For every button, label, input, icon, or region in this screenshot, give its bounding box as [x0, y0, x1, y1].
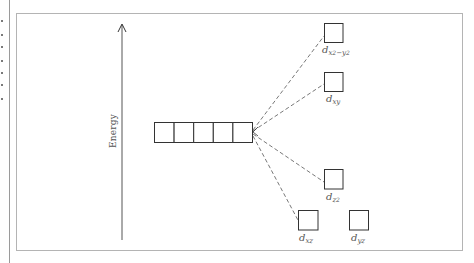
degenerate-orbital-box	[155, 123, 175, 143]
splitting-diagram	[0, 0, 474, 263]
connector-dz2	[253, 134, 324, 182]
orbital-box-dz2	[325, 170, 344, 190]
energy-axis-arrow	[118, 24, 126, 240]
connector-dxy	[253, 84, 324, 131]
label-dz2: dz2	[326, 192, 340, 204]
connector-dxz	[253, 136, 299, 222]
connector-dx2y2	[253, 36, 324, 130]
degenerate-orbital-box	[174, 123, 194, 143]
label-dxz: dxz	[299, 233, 313, 245]
degenerate-orbital-box	[213, 123, 233, 143]
label-dxy: dxy	[326, 94, 340, 106]
degenerate-orbital-box	[194, 123, 214, 143]
label-dyz: dyz	[351, 233, 365, 245]
splitting-connectors	[253, 36, 324, 222]
orbital-box-dx2y2	[325, 24, 344, 43]
orbital-box-dxz	[299, 211, 319, 231]
degenerate-orbital-box	[233, 123, 253, 143]
orbital-box-dyz	[350, 211, 369, 231]
orbital-box-dxy	[325, 73, 344, 92]
energy-axis-label: Energy	[108, 114, 118, 148]
label-dx2y2: dx2−y2	[322, 45, 350, 57]
degenerate-orbital-row	[155, 123, 253, 143]
